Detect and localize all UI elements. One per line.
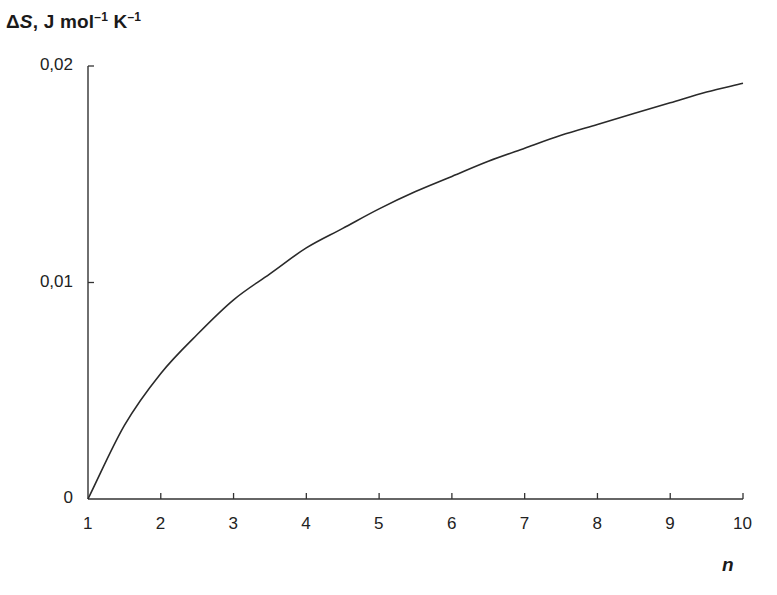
x-tick-label: 3: [229, 514, 238, 534]
x-tick-label: 2: [156, 514, 165, 534]
y-tick-label: 0,01: [40, 272, 73, 292]
x-tick-label: 6: [447, 514, 456, 534]
x-axis-title: n: [722, 554, 734, 576]
x-tick-label: 10: [733, 514, 752, 534]
chart-canvas: [0, 0, 777, 595]
axes: [88, 66, 743, 499]
y-tick-label: 0: [64, 488, 73, 508]
x-tick-label: 1: [83, 514, 92, 534]
x-tick-label: 9: [665, 514, 674, 534]
data-line: [88, 83, 743, 499]
y-tick-label: 0,02: [40, 55, 73, 75]
x-tick-label: 5: [374, 514, 383, 534]
x-tick-label: 7: [520, 514, 529, 534]
x-tick-label: 4: [301, 514, 310, 534]
x-tick-label: 8: [592, 514, 601, 534]
